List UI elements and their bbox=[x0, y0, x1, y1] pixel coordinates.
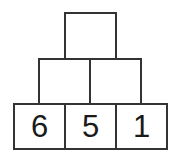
pyramid-cell-bottom-right[interactable]: 1 bbox=[115, 103, 168, 150]
pyramid-cell-bottom-middle[interactable]: 5 bbox=[64, 103, 117, 150]
pyramid-cell-bottom-left[interactable]: 6 bbox=[13, 103, 66, 150]
pyramid-cell-middle-right[interactable] bbox=[89, 58, 142, 105]
pyramid-cell-top[interactable] bbox=[64, 12, 117, 60]
pyramid-cell-middle-left[interactable] bbox=[38, 58, 91, 105]
